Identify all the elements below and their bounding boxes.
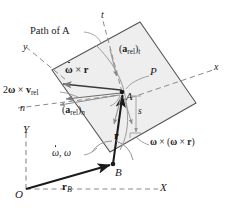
- centripetal-leader: [136, 137, 149, 145]
- t-axis-label: t: [101, 10, 104, 20]
- origin-label: O: [15, 189, 23, 200]
- rb-vector-label: rB: [62, 181, 72, 194]
- kinematics-figure: Path of A t n y x X Y O A B P s (arel)t …: [0, 0, 241, 211]
- centripetal-cross-icon-2: ×: [180, 137, 185, 147]
- omega-dot-symbol: ω: [52, 148, 59, 158]
- n-axis-label: n: [20, 103, 25, 113]
- centripetal-r: r: [187, 137, 191, 147]
- a-rel-t-sub: rel: [127, 48, 135, 56]
- centripetal-omega-2: ω: [170, 137, 177, 147]
- a-rel-t-comp: t: [138, 48, 140, 56]
- r-vector-label: r: [114, 130, 119, 141]
- path-of-a-leader: [84, 32, 101, 43]
- x-axis-label: x: [214, 62, 218, 72]
- a-rel-n-sub: rel: [70, 109, 78, 117]
- point-a-label: A: [126, 92, 132, 103]
- coriolis-v-sub: rel: [31, 89, 39, 97]
- y-axis-label: y: [23, 42, 27, 52]
- point-a-dot: [120, 90, 125, 95]
- path-of-a-label: Path of A: [30, 26, 70, 37]
- angular-accel-cross-icon: ×: [75, 64, 81, 75]
- centripetal-omega-1: ω: [150, 137, 157, 147]
- angular-accel-cross-r-label: ω × r: [65, 65, 89, 76]
- a-rel-n-comp: n: [81, 109, 85, 117]
- arc-length-label: s: [138, 107, 142, 117]
- global-x-axis-label: X: [160, 182, 167, 193]
- angular-accel-r: r: [84, 64, 89, 75]
- coriolis-label: 2ω × vrel: [3, 85, 39, 97]
- rotating-plate: [52, 22, 196, 152]
- a-rel-normal-label: (arel)n: [62, 105, 85, 117]
- point-p-label: P: [150, 66, 157, 77]
- point-b-label: B: [115, 167, 122, 178]
- omega-symbol: ω: [64, 147, 71, 158]
- omega-pair-leader: [84, 148, 97, 155]
- a-rel-tangential-label: (arel)t: [119, 44, 140, 56]
- centripetal-label: ω × (ω × r): [150, 138, 195, 148]
- centripetal-cross-icon-1: ×: [159, 137, 164, 147]
- angular-accel-omega: ω: [65, 65, 73, 76]
- omega-pair-label: ω, ω: [52, 148, 71, 158]
- rb-sub: B: [67, 185, 72, 194]
- coriolis-omega: ω: [8, 84, 15, 95]
- coriolis-cross-icon: ×: [18, 84, 24, 95]
- global-y-axis-label: Y: [23, 124, 29, 135]
